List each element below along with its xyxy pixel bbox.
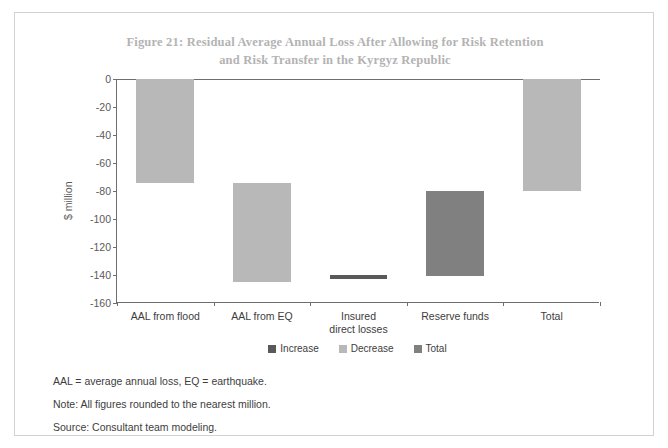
legend-item-total[interactable]: Total <box>414 343 447 354</box>
y-axis-tick-label: 0 <box>105 73 111 85</box>
figure-source: Source: Consultant team modeling. <box>53 421 217 433</box>
x-axis-tick-mark <box>600 302 601 306</box>
figure-container: Figure 21: Residual Average Annual Loss … <box>14 12 654 436</box>
legend-item-decrease[interactable]: Decrease <box>339 343 394 354</box>
bar-reserve-funds <box>426 191 484 276</box>
x-axis-tick-mark <box>503 302 504 306</box>
x-axis-tick-mark <box>214 302 215 306</box>
legend-swatch-icon <box>268 345 276 353</box>
legend-label: Decrease <box>351 343 394 354</box>
chart-legend: IncreaseDecreaseTotal <box>116 343 599 354</box>
chart-area: $ million 0-20-40-60-80-100-120-140-160 … <box>15 13 655 437</box>
y-axis-tick-mark <box>113 163 117 164</box>
x-axis-tick-mark <box>407 302 408 306</box>
bar-aal-from-flood <box>136 79 194 183</box>
y-axis-tick-label: -20 <box>96 101 111 113</box>
figure-note: Note: All figures rounded to the nearest… <box>53 398 271 410</box>
plot-region: 0-20-40-60-80-100-120-140-160 AAL from f… <box>116 79 599 303</box>
x-axis-tick-mark <box>310 302 311 306</box>
x-axis-label: Reserve funds <box>421 310 489 323</box>
bar-total <box>523 79 581 191</box>
x-axis-label: Insured direct losses <box>329 310 387 335</box>
y-axis-tick-label: -140 <box>90 269 111 281</box>
y-axis-tick-mark <box>113 219 117 220</box>
y-axis-tick-mark <box>113 275 117 276</box>
y-axis-tick-mark <box>113 247 117 248</box>
legend-swatch-icon <box>414 345 422 353</box>
bar-aal-from-eq <box>233 183 291 282</box>
y-axis-tick-label: -120 <box>90 241 111 253</box>
y-axis-tick-mark <box>113 107 117 108</box>
y-axis-tick-mark <box>113 191 117 192</box>
figure-note-abbreviations: AAL = average annual loss, EQ = earthqua… <box>53 375 267 387</box>
legend-label: Total <box>426 343 447 354</box>
x-axis-label: Total <box>541 310 563 323</box>
y-axis-tick-label: -100 <box>90 213 111 225</box>
legend-swatch-icon <box>339 345 347 353</box>
y-axis-title: $ million <box>61 161 75 241</box>
y-axis-tick-label: -80 <box>96 185 111 197</box>
y-axis-tick-label: -40 <box>96 129 111 141</box>
x-axis-tick-mark <box>117 302 118 306</box>
x-axis-label: AAL from flood <box>131 310 200 323</box>
y-axis-tick-label: -160 <box>90 297 111 309</box>
y-axis-tick-label: -60 <box>96 157 111 169</box>
legend-item-increase[interactable]: Increase <box>268 343 318 354</box>
y-axis-tick-mark <box>113 135 117 136</box>
x-axis-label: AAL from EQ <box>231 310 292 323</box>
legend-label: Increase <box>280 343 318 354</box>
y-axis-tick-mark <box>113 79 117 80</box>
bar-insured-direct-losses <box>330 275 388 279</box>
